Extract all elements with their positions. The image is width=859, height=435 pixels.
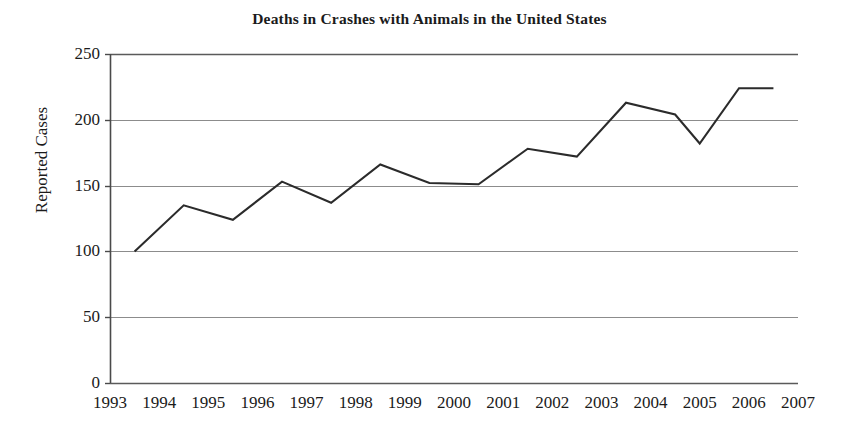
y-tick-label: 0 — [40, 374, 100, 391]
data-series-line — [135, 88, 774, 251]
chart-container: Deaths in Crashes with Animals in the Un… — [0, 0, 859, 435]
y-tick-marks — [105, 55, 110, 384]
y-tick-label: 200 — [40, 111, 100, 128]
plot-area — [0, 0, 859, 435]
y-tick-label: 100 — [40, 242, 100, 259]
x-tick-label: 2007 — [768, 394, 828, 411]
y-tick-label: 50 — [40, 308, 100, 325]
y-tick-label: 150 — [40, 177, 100, 194]
gridlines — [110, 55, 798, 384]
y-tick-label: 250 — [40, 45, 100, 62]
